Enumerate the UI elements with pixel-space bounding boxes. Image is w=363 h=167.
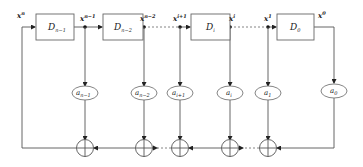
delay-block-d-n-minus-2: Dn−2 <box>103 14 143 40</box>
feedback-path <box>22 27 76 148</box>
label-x-1: x1 <box>263 13 272 23</box>
adder-3 <box>172 140 189 157</box>
coef-a-1: a1 <box>255 86 281 100</box>
label-x-n: xn <box>16 10 25 20</box>
delay-block-d-i: Di <box>191 14 230 40</box>
coef-a-0: a0 <box>321 84 347 98</box>
lfsr-diagram: Dn−1 Dn−2 Di D0 xn xn−1 xn−2 xi+1 xi x1 … <box>0 0 363 167</box>
coef-a-i: ai <box>217 86 243 100</box>
delay-block-d-0: D0 <box>277 14 314 40</box>
adder-1 <box>77 140 94 157</box>
label-x-i: xi <box>228 13 235 23</box>
adder-2 <box>136 140 153 157</box>
coef-to-adder-lines <box>85 98 334 148</box>
adder-5 <box>260 140 277 157</box>
adder-4 <box>222 140 239 157</box>
label-x-0: x0 <box>317 10 326 20</box>
label-x-n-minus-1: xn−1 <box>79 13 96 23</box>
coef-a-n-minus-1: an−1 <box>72 86 98 100</box>
coef-a-i-plus-1: ai+1 <box>167 86 193 100</box>
delay-block-d-n-minus-1: Dn−1 <box>36 14 74 40</box>
coef-a-n-minus-2: an−2 <box>131 86 157 100</box>
label-x-i-plus-1: xi+1 <box>172 13 187 23</box>
label-x-n-minus-2: xn−2 <box>139 13 156 23</box>
